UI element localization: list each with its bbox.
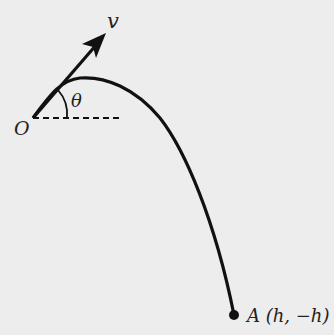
velocity-arrow xyxy=(33,33,106,118)
origin-label: O xyxy=(14,117,30,139)
arrowhead-icon xyxy=(82,33,106,58)
point-a-dot xyxy=(229,310,239,320)
trajectory-diagram: v θ O A (h, −h) xyxy=(0,0,334,335)
point-a-label: A (h, −h) xyxy=(245,305,329,326)
angle-label: θ xyxy=(71,90,82,111)
angle-arc xyxy=(58,90,67,118)
velocity-label: v xyxy=(107,9,119,33)
trajectory-curve xyxy=(33,78,234,315)
